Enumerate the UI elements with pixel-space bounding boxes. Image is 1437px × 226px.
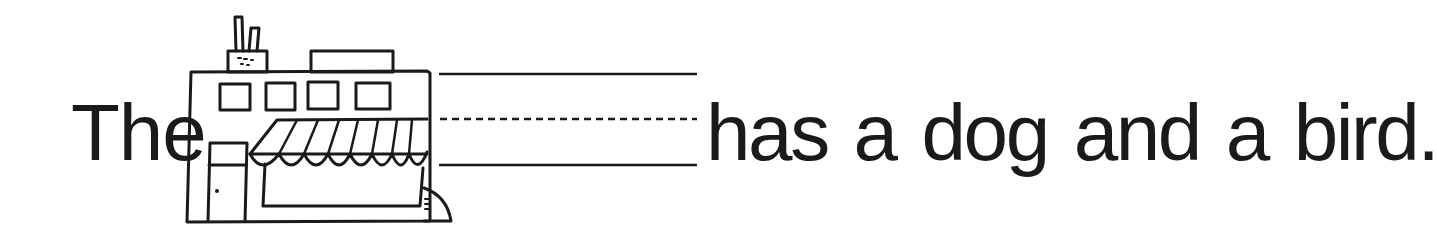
sentence-end-text: has a dog and a bird. — [706, 93, 1437, 173]
door-knob-icon — [215, 189, 219, 193]
writing-lines[interactable] — [438, 60, 700, 180]
store-building-icon — [180, 10, 460, 226]
chimney-pipe-icon — [235, 17, 243, 51]
chimney-pipe-icon — [249, 28, 259, 51]
